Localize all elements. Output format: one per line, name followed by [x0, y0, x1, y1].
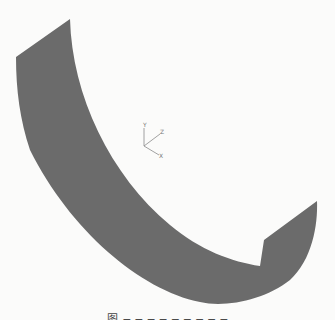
figure-canvas: Y Z X	[0, 0, 335, 320]
z-axis-label: Z	[160, 128, 164, 135]
figure-caption: 图 ─ ─ ─ ─ ─ ─ ─ ─ ─	[0, 313, 335, 320]
z-axis-line	[144, 134, 160, 146]
y-axis-label: Y	[142, 121, 147, 128]
curved-shell-surface	[16, 19, 317, 304]
x-axis-label: X	[159, 152, 163, 159]
x-axis-line	[144, 146, 159, 155]
axis-triad	[144, 128, 160, 155]
